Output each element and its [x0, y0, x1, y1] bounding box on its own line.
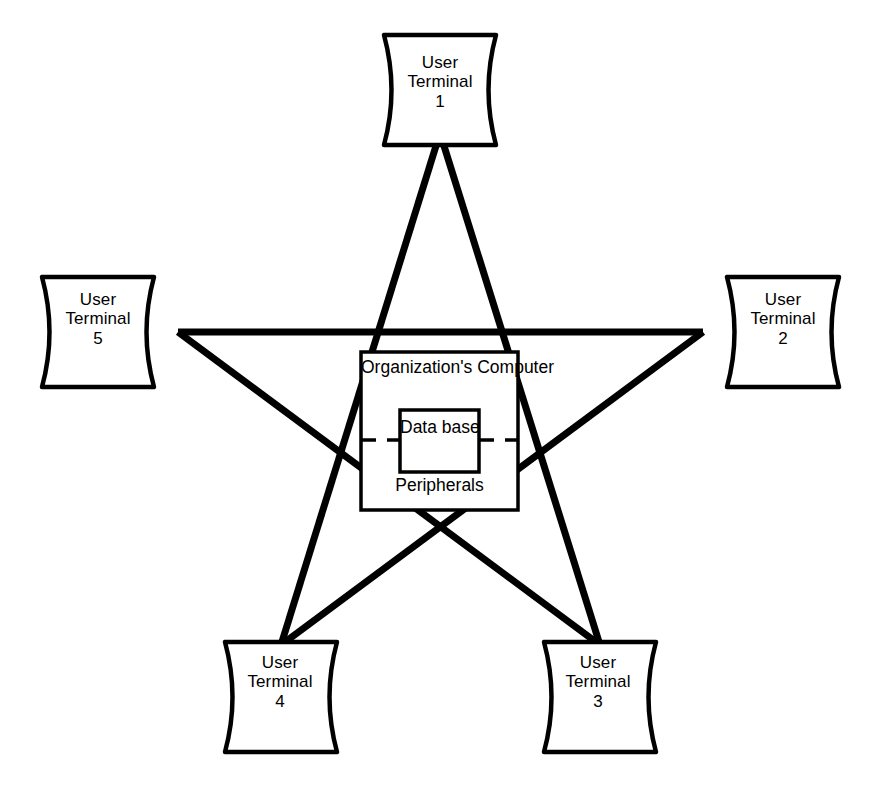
organization-computer-title-line1: Organization's: [361, 357, 472, 377]
terminal-4-shape[interactable]: [225, 642, 337, 752]
terminal-2-shape[interactable]: [727, 277, 839, 387]
organization-computer-title-line2: Computer: [477, 357, 554, 377]
star-network-diagram: User Terminal 1 User Terminal 2 User Ter…: [0, 0, 880, 789]
terminal-5-shape[interactable]: [42, 277, 154, 387]
database-label-line1: Data: [400, 417, 437, 437]
organization-computer-title: Organization's Computer: [361, 358, 518, 378]
terminal-1-shape[interactable]: [384, 35, 496, 145]
terminal-3-shape[interactable]: [544, 642, 656, 752]
database-label: Data base: [400, 418, 479, 438]
database-label-line2: base: [442, 417, 480, 437]
diagram-canvas: [0, 0, 880, 789]
peripherals-label: Peripherals: [361, 476, 518, 496]
